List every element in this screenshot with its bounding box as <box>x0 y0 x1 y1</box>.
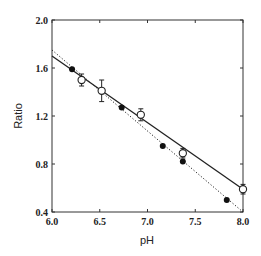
plot-frame <box>52 20 243 212</box>
x-tick-label: 7.0 <box>141 216 154 227</box>
open-circle-marker <box>239 186 246 193</box>
y-tick-label: 2.0 <box>36 15 49 26</box>
x-tick-label: 7.5 <box>189 216 202 227</box>
axis-ticks <box>52 20 243 212</box>
open-circle-marker <box>137 111 144 118</box>
filled-circle-marker <box>180 159 186 165</box>
x-tick-labels: 6.06.57.07.58.0 <box>46 216 250 227</box>
x-tick-label: 6.0 <box>46 216 59 227</box>
x-tick-label: 6.5 <box>94 216 107 227</box>
open-circle-marker <box>78 76 85 83</box>
filled-circle-marker <box>119 105 125 111</box>
y-tick-labels: 0.40.81.21.62.0 <box>36 15 49 218</box>
open-circle-marker <box>98 87 105 94</box>
y-tick-label: 1.6 <box>36 63 49 74</box>
y-axis-label: Ratio <box>12 103 24 129</box>
y-tick-label: 0.4 <box>36 207 49 218</box>
filled-circle-marker <box>69 66 75 72</box>
x-tick-label: 8.0 <box>237 216 250 227</box>
filled-circle-marker <box>160 143 166 149</box>
x-axis-label: pH <box>140 234 154 246</box>
filled-circle-marker <box>224 197 230 203</box>
y-tick-label: 0.8 <box>36 159 49 170</box>
ratio-vs-ph-chart: 6.06.57.07.58.0 0.40.81.21.62.0 pH Ratio <box>0 0 261 256</box>
y-tick-label: 1.2 <box>36 111 49 122</box>
open-circle-marker <box>179 150 186 157</box>
